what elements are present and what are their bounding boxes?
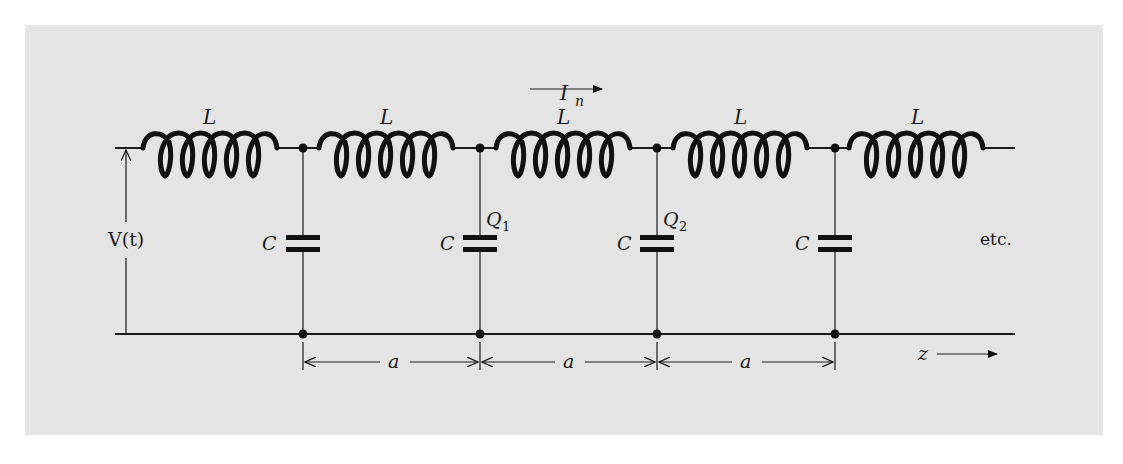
z-axis-indicator: z [917,342,997,364]
charge-label: Q [486,208,502,230]
capacitor-3: C Q 2 [617,144,687,339]
inductor-label: L [910,105,924,129]
capacitor-label: C [795,232,810,254]
inductor-label: L [379,105,393,129]
z-axis-label: z [917,342,929,364]
spacing-dimensions: a a a [303,342,835,372]
voltage-source: V(t) [107,150,144,334]
inductor-5 [849,133,983,176]
capacitor-label: C [262,232,277,254]
charge-subscript: 2 [679,219,687,234]
inductor-label: L [733,105,747,129]
charge-label: Q [663,208,679,230]
lc-ladder-diagram: L L L L L I n V(t) C C Q 1 [0,0,1123,464]
current-indicator: I n [530,81,602,109]
continuation-label: etc. [980,229,1012,249]
spacing-label: a [740,350,751,372]
spacing-label: a [388,350,399,372]
current-subscript: n [575,93,584,109]
inductor-1 [143,133,277,176]
current-label: I [559,81,569,105]
inductor-label: L [202,105,216,129]
voltage-label: V(t) [107,228,144,250]
capacitor-2: C Q 1 [440,144,510,339]
capacitor-label: C [440,232,455,254]
capacitor-1: C [262,144,320,339]
inductor-4 [673,133,807,176]
capacitor-4: C [795,144,852,339]
spacing-label: a [563,350,574,372]
inductor-3 [496,133,630,176]
capacitor-label: C [617,232,632,254]
inductor-2 [319,133,453,176]
inductor-label: L [556,105,570,129]
charge-subscript: 1 [502,219,510,234]
